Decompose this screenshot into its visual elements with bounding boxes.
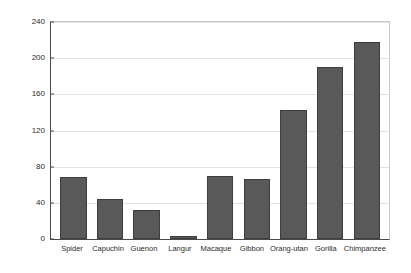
bar-orang-utan <box>280 110 306 239</box>
bar-slot-capuchin <box>92 22 129 239</box>
x-label-gorilla: Gorilla <box>308 245 344 253</box>
x-label-langur: Langur <box>162 245 198 253</box>
bar-slot-guenon <box>128 22 165 239</box>
bar-capuchin <box>97 199 123 239</box>
bar-slot-macaque <box>202 22 239 239</box>
bar-chimpanzee <box>354 42 380 239</box>
bar-series <box>51 22 389 239</box>
y-tick-label-40: 40 <box>36 199 51 207</box>
bar-langur <box>170 236 196 239</box>
bar-guenon <box>133 210 159 239</box>
bar-slot-gibbon <box>238 22 275 239</box>
bar-chart: 240 200 160 120 80 40 0 <box>0 0 411 273</box>
y-tick-label-200: 200 <box>32 54 51 62</box>
y-tick-label-240: 240 <box>32 18 51 26</box>
x-label-capuchin: Capuchin <box>90 245 126 253</box>
bar-macaque <box>207 176 233 239</box>
x-label-gibbon: Gibbon <box>234 245 270 253</box>
x-label-macaque: Macaque <box>198 245 234 253</box>
bar-slot-gorilla <box>312 22 349 239</box>
x-label-chimpanzee: Chimpanzee <box>344 245 386 253</box>
x-label-guenon: Guenon <box>126 245 162 253</box>
x-label-orang-utan: Orang-utan <box>270 245 308 253</box>
x-axis-labels: Spider Capuchin Guenon Langur Macaque Gi… <box>50 245 390 253</box>
bar-gibbon <box>244 179 270 239</box>
y-tick-label-80: 80 <box>36 163 51 171</box>
bar-slot-langur <box>165 22 202 239</box>
y-tick-label-0: 0 <box>41 235 51 243</box>
bar-slot-orang-utan <box>275 22 312 239</box>
bar-slot-chimpanzee <box>348 22 385 239</box>
y-tick-label-120: 120 <box>32 127 51 135</box>
bar-spider <box>60 177 86 239</box>
bar-slot-spider <box>55 22 92 239</box>
y-tick-label-160: 160 <box>32 90 51 98</box>
x-label-spider: Spider <box>54 245 90 253</box>
bar-gorilla <box>317 67 343 239</box>
plot-area: 240 200 160 120 80 40 0 <box>50 21 390 240</box>
